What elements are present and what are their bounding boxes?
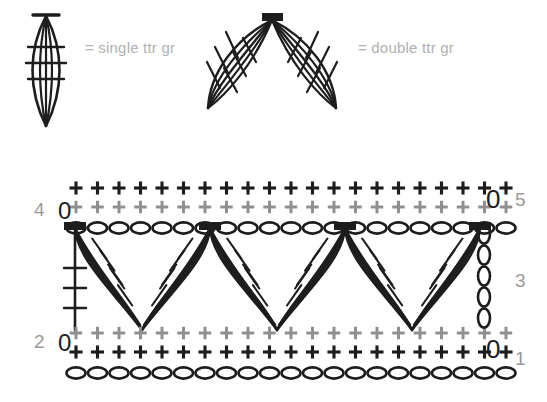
row-1-foundation-chain	[67, 367, 516, 378]
double-ttr-gr-symbol	[207, 13, 337, 108]
row-4-chain	[67, 222, 516, 233]
turning-chain-right-row1: 0	[486, 334, 500, 364]
row-label-3: 3	[515, 270, 526, 291]
turning-chain-right-row5: 0	[486, 184, 500, 214]
crochet-chart-page: = single ttr gr = double ttr gr	[0, 0, 547, 402]
chart-canvas: 4 2 5 3 1 0 0 0 0	[0, 0, 547, 402]
row-4-single-crochet	[70, 201, 512, 213]
row-label-2: 2	[34, 331, 45, 352]
single-ttr-gr-symbol	[26, 15, 66, 126]
row-label-4: 4	[34, 199, 45, 220]
row-2-single-crochet	[70, 327, 512, 339]
row-5-single-crochet	[69, 181, 512, 194]
row-label-5: 5	[515, 189, 526, 210]
turning-chain-left-row2: 0	[58, 329, 71, 356]
row-label-1: 1	[515, 348, 526, 369]
row-3-right-turning-chain	[478, 225, 490, 328]
row-1-single-crochet	[69, 345, 512, 358]
row-3-motif-band	[64, 222, 491, 330]
legend-double-ttr-label: = double ttr gr	[358, 39, 454, 56]
turning-chain-left-row4: 0	[58, 197, 71, 224]
legend-single-ttr-label: = single ttr gr	[85, 39, 175, 56]
